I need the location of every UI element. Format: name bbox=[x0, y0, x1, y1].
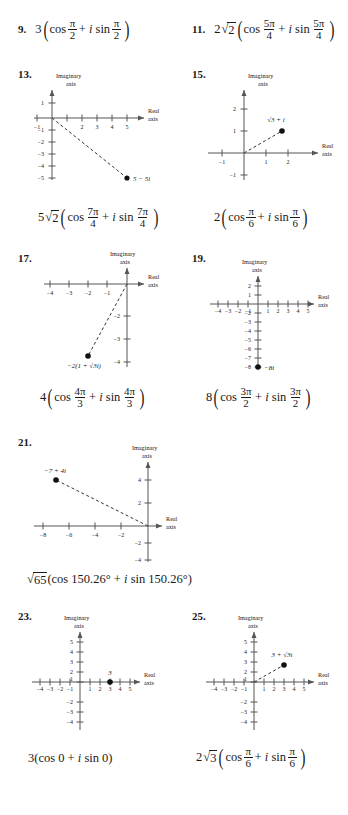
imaginary-axis-label-line2: axis bbox=[248, 622, 259, 629]
angle-fraction: 3π2 bbox=[238, 386, 253, 409]
real-axis-label-line1: Real bbox=[148, 273, 160, 280]
ytick-label: 5 bbox=[244, 639, 247, 645]
problem-21-answer: √65(cos 150.26° + i sin 150.26°) bbox=[26, 569, 192, 587]
xtick-label: 5 bbox=[126, 124, 129, 130]
plus-sign: + bbox=[79, 22, 86, 36]
problem-17-answer: 4(cos4π3+ i sin4π3) bbox=[40, 386, 146, 409]
ytick-label: −3 bbox=[38, 151, 44, 157]
problem-25-answer: 2√3(cosπ6+ i sinπ6) bbox=[196, 746, 307, 769]
angle-fraction-2: 3π2 bbox=[288, 386, 303, 409]
ytick-label: −1 bbox=[38, 127, 44, 133]
real-axis-label-line2: axis bbox=[148, 281, 159, 288]
imaginary-unit: i bbox=[268, 210, 271, 224]
real-axis-label-line2: axis bbox=[148, 115, 159, 122]
angle-fraction: 4π3 bbox=[72, 386, 87, 409]
problem-13-graph: −1 2 3 4 5 1 −1 −2 −3 −4 −5 Real axis Im… bbox=[22, 68, 172, 186]
cos-label: cos bbox=[54, 390, 71, 404]
radical: √2 bbox=[44, 209, 59, 225]
plus-sign: + bbox=[102, 210, 109, 224]
sin-label: sin bbox=[295, 22, 310, 36]
coefficient: 3 bbox=[35, 22, 41, 36]
xtick-label: 3 bbox=[96, 124, 99, 130]
ytick-label: 1 bbox=[244, 676, 247, 682]
xtick-label: 1 bbox=[89, 686, 92, 692]
ytick-label: −4 bbox=[241, 719, 247, 725]
problem-15-answer: 2(cosπ6+ i sinπ6) bbox=[214, 206, 309, 229]
xtick-label: 2 bbox=[273, 686, 276, 692]
plus-sign: + bbox=[278, 22, 285, 36]
xtick-label: −4 bbox=[47, 290, 53, 296]
imaginary-unit: i bbox=[265, 390, 268, 404]
xtick-label: −8 bbox=[40, 532, 46, 538]
plus-sign: + bbox=[89, 390, 96, 404]
xtick-label: 2 bbox=[99, 686, 102, 692]
ytick-label: −3 bbox=[241, 709, 247, 715]
xtick-label: −1 bbox=[241, 686, 247, 692]
plotted-point bbox=[107, 679, 113, 685]
imaginary-axis-label-line2: axis bbox=[120, 258, 131, 265]
cos-label: cos bbox=[38, 751, 55, 765]
ytick-label: −7 bbox=[245, 355, 251, 361]
coefficient: 4 bbox=[40, 390, 46, 404]
imaginary-axis-arrow bbox=[256, 276, 261, 282]
close-paren: ) bbox=[188, 572, 192, 586]
xtick-label: −1 bbox=[67, 686, 73, 692]
close-paren: ) bbox=[108, 751, 112, 765]
ytick-label: −2 bbox=[38, 139, 44, 145]
ytick-label: −5 bbox=[38, 175, 44, 181]
cos-label: cos bbox=[67, 210, 84, 224]
ytick-label: −4 bbox=[245, 328, 251, 334]
xtick-label: −1 bbox=[219, 159, 225, 165]
point-label: 5 − 5i bbox=[133, 175, 150, 183]
real-axis-label-line1: Real bbox=[144, 671, 156, 678]
xtick-label: 4 bbox=[297, 308, 300, 314]
angle-fraction-2: 4π3 bbox=[122, 386, 137, 409]
ytick-label: 4 bbox=[138, 477, 141, 483]
point-label: −8i bbox=[264, 364, 274, 372]
real-axis-label-line1: Real bbox=[318, 671, 330, 678]
imaginary-axis-label-line1: Imaginary bbox=[242, 258, 268, 265]
imaginary-axis-arrow bbox=[252, 632, 257, 638]
imaginary-axis-label-line2: axis bbox=[74, 622, 85, 629]
imaginary-axis-label-line2: axis bbox=[252, 266, 263, 273]
imaginary-axis-label-line2: axis bbox=[258, 80, 269, 87]
angle-fraction: π6 bbox=[244, 746, 254, 769]
angle-fraction-2: 7π4 bbox=[135, 206, 150, 229]
plotted-point bbox=[281, 662, 287, 668]
real-axis-arrow bbox=[156, 524, 162, 529]
vector-ray bbox=[56, 480, 148, 526]
imaginary-unit: i bbox=[112, 210, 115, 224]
ytick-label: 5 bbox=[70, 639, 73, 645]
cos-label: cos bbox=[220, 390, 237, 404]
xtick-label: 3 bbox=[283, 686, 286, 692]
cos-label: cos bbox=[50, 22, 67, 36]
ytick-label: −1 bbox=[230, 172, 236, 178]
problem-19-graph: −4 −3 −2 −1 1 2 3 4 5 2 1 −2 −3 −4 −5 −6… bbox=[196, 252, 346, 370]
angle-fraction-2: 5π4 bbox=[311, 18, 326, 41]
real-axis-label-line2: axis bbox=[144, 679, 155, 686]
real-axis-label-line2: axis bbox=[322, 150, 333, 157]
sin-label: sin bbox=[274, 210, 289, 224]
imaginary-axis-label-line1: Imaginary bbox=[132, 444, 158, 451]
ytick-label: 1 bbox=[233, 128, 236, 134]
xtick-label: 5 bbox=[303, 686, 306, 692]
imaginary-unit: i bbox=[78, 751, 81, 765]
ytick-label: 1 bbox=[248, 292, 251, 298]
answer-key-page: 9. 3(cosπ2+ i sinπ2) 11. 2√2(cos5π4+ i s… bbox=[0, 0, 348, 815]
xtick-label: −3 bbox=[221, 686, 227, 692]
ytick-label: 4 bbox=[70, 649, 73, 655]
angle-fraction-2: π6 bbox=[290, 206, 300, 229]
problem-19-answer: 8(cos3π2+ i sin3π2) bbox=[206, 386, 312, 409]
imaginary-axis-label-line1: Imaginary bbox=[110, 250, 136, 257]
vector-ray bbox=[244, 131, 282, 153]
ytick-label: 2 bbox=[70, 669, 73, 675]
radical: √2 bbox=[220, 21, 235, 37]
vector-ray bbox=[52, 118, 127, 178]
xtick-label: 4 bbox=[119, 686, 122, 692]
ytick-label: −2 bbox=[67, 699, 73, 705]
ytick-label: 3 bbox=[70, 659, 73, 665]
imaginary-unit: i bbox=[265, 750, 268, 764]
xtick-label: 5 bbox=[307, 308, 310, 314]
imaginary-axis-label-line1: Imaginary bbox=[248, 72, 274, 79]
xtick-label: 5 bbox=[129, 686, 132, 692]
